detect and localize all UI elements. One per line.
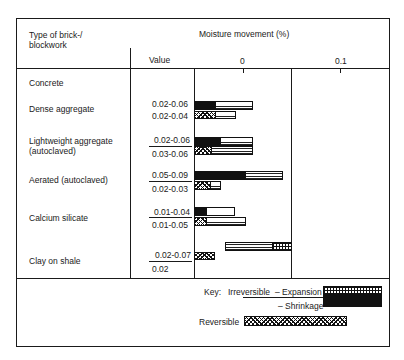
bar-aerated-shrinkage <box>194 171 246 180</box>
bar-dense-shrinkage-black <box>194 101 216 110</box>
bar-calcium-rev-stripe <box>206 217 246 226</box>
type-header: Type of brick-/ <box>29 30 82 40</box>
value-lightweight-irr: 0.02-0.06 <box>154 135 190 145</box>
key-irreversible-label: Irreversible <box>228 287 270 297</box>
row-label-concrete: Concrete <box>29 78 64 88</box>
value-dense-rev: 0.02-0.04 <box>152 111 188 121</box>
bar-lightweight-rev-stripe <box>211 146 253 155</box>
row-label-aerated: Aerated (autoclaved) <box>29 175 108 185</box>
key-reversible-label: Reversible <box>199 317 239 327</box>
value-header: Value <box>149 55 170 65</box>
key-shrinkage-swatch <box>323 293 382 307</box>
bar-aerated-reversible <box>194 181 211 190</box>
bar-lightweight-shrinkage <box>194 137 221 146</box>
tick-label-0: 0 <box>240 56 245 66</box>
tick-0 <box>243 68 244 73</box>
movement-header: Moisture movement (%) <box>199 29 289 39</box>
value-clay-rev: 0.02 <box>152 264 169 274</box>
value-calcium-rev: 0.01-0.05 <box>152 220 188 230</box>
header-divider <box>16 68 390 69</box>
fraction-line-aerated <box>149 181 192 182</box>
bar-aerated-rev-stripe <box>210 181 221 190</box>
row-label-lightweight: Lightweight aggregate <box>29 136 113 146</box>
frame-bottom <box>16 346 390 347</box>
tick-0.1 <box>340 68 341 73</box>
bar-dense-irreversible <box>215 101 253 110</box>
value-column-divider <box>130 48 131 279</box>
key-row-divider <box>16 278 390 279</box>
type-header-line2: blockwork <box>29 40 67 50</box>
bar-calcium-irreversible <box>206 207 235 216</box>
bar-clay-irreversible <box>225 242 273 251</box>
value-clay-irr: 0.02-0.07 <box>155 250 191 260</box>
value-aerated-rev: 0.02-0.03 <box>152 184 188 194</box>
key-divider <box>243 297 323 298</box>
frame-top <box>16 18 390 19</box>
bar-aerated-irreversible <box>245 171 283 180</box>
value-lightweight-rev: 0.03-0.06 <box>152 149 188 159</box>
value-aerated-irr: 0.05-0.09 <box>152 170 188 180</box>
row-label-dense: Dense aggregate <box>29 104 94 114</box>
bar-lightweight-reversible <box>194 146 212 155</box>
fraction-line-clay <box>149 261 192 262</box>
bar-dense-rev-stripe <box>215 111 236 119</box>
value-dense-irr: 0.02-0.06 <box>152 99 188 109</box>
bar-clay-expansion <box>272 242 292 251</box>
key-label: Key: <box>204 287 221 297</box>
bar-clay-reversible <box>194 252 215 260</box>
key-reversible-swatch <box>244 316 347 326</box>
key-shrinkage-label: – Shrinkage <box>278 301 323 311</box>
row-label-clay: Clay on shale <box>29 256 81 266</box>
row-label-lightweight-2: (autoclaved) <box>29 146 76 156</box>
tick-label-0.1: 0.1 <box>335 56 347 66</box>
bar-dense-reversible <box>194 111 216 119</box>
fraction-line-calcium <box>149 217 192 218</box>
value-calcium-irr: 0.01-0.04 <box>154 207 190 217</box>
bar-lightweight-irreversible <box>220 137 253 146</box>
fraction-line-lightweight <box>149 146 192 147</box>
row-label-calcium: Calcium silicate <box>29 213 88 223</box>
key-expansion-label: – Expansion <box>275 287 322 297</box>
